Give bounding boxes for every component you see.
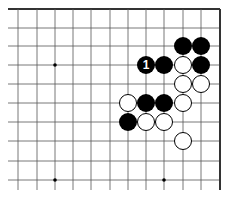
white-stone[interactable] [119, 94, 137, 112]
board-grid [0, 0, 226, 202]
go-board[interactable]: 1 [0, 0, 226, 202]
star-point [162, 178, 166, 182]
black-stone[interactable] [174, 37, 192, 55]
white-stone[interactable] [174, 94, 192, 112]
black-stone[interactable] [192, 37, 210, 55]
star-point [53, 63, 57, 67]
black-stone[interactable] [155, 56, 173, 74]
black-stone[interactable] [137, 94, 155, 112]
white-stone[interactable] [192, 75, 210, 93]
black-stone[interactable] [119, 113, 137, 131]
white-stone[interactable] [174, 56, 192, 74]
black-stone[interactable] [192, 56, 210, 74]
white-stone[interactable] [137, 113, 155, 131]
black-stone-move-1[interactable]: 1 [137, 56, 155, 74]
white-stone[interactable] [174, 75, 192, 93]
white-stone[interactable] [174, 132, 192, 150]
white-stone[interactable] [155, 113, 173, 131]
black-stone[interactable] [155, 94, 173, 112]
star-point [53, 178, 57, 182]
